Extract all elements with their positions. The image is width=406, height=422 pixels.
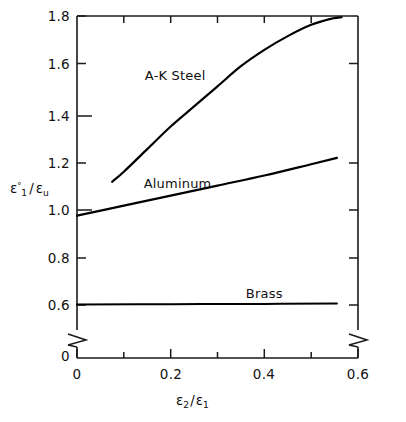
x-tick-label-0.4: 0.4 (246, 366, 282, 382)
x-tick-label-0: 0 (67, 366, 87, 382)
y-tick-label-1.2: 1.2 (26, 155, 70, 171)
figure: 1.8 1.6 1.4 1.2 1.0 0.8 0.6 0 0 0.2 0.4 … (0, 0, 406, 422)
x-tick-label-0.6: 0.6 (340, 366, 376, 382)
y-tick-label-1.0: 1.0 (26, 202, 70, 218)
series-label-aluminum: Aluminum (144, 176, 212, 191)
y-tick-label-zero-break: 0 (26, 348, 70, 364)
x-axis-title-eps2: ε (196, 392, 203, 408)
data-series-layer (77, 17, 342, 304)
y-axis-title-sub2: u (43, 187, 49, 198)
series-line-a-k-steel (112, 17, 341, 182)
y-ticks (77, 16, 92, 305)
x-ticks (77, 349, 358, 358)
x-tick-label-0.2: 0.2 (153, 366, 189, 382)
y-tick-label-0.6: 0.6 (26, 297, 70, 313)
x-axis-title: ε2/ε1 (176, 392, 209, 410)
axis-frame (77, 16, 358, 358)
axis-break-right (349, 334, 367, 347)
axis-break-left (68, 334, 86, 347)
series-line-brass (77, 304, 337, 305)
y-tick-label-0.8: 0.8 (26, 250, 70, 266)
y-tick-label-1.8: 1.8 (26, 8, 70, 24)
series-label-brass: Brass (246, 286, 283, 301)
y-tick-label-1.6: 1.6 (26, 56, 70, 72)
x-axis-title-sub2: 1 (203, 399, 209, 410)
x-ticks-top (124, 16, 311, 23)
y-tick-label-1.4: 1.4 (26, 108, 70, 124)
series-label-ak-steel: A-K Steel (145, 68, 206, 83)
y-axis-title: ε°1/εu (10, 180, 49, 198)
y-axis-title-slash: / (27, 180, 36, 196)
axis-break-marks (68, 334, 367, 347)
y-ticks-right (349, 64, 358, 306)
y-axis-title-eps2: ε (36, 180, 43, 196)
